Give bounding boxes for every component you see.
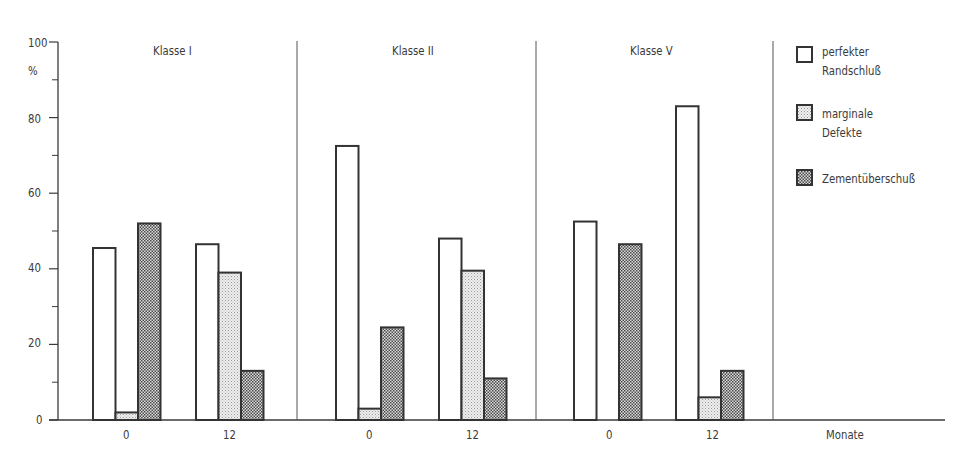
x-label-k1-12: 12 (223, 428, 236, 441)
legend-label-marginale-line1: marginale (822, 107, 873, 120)
y-tick-label-80: 80 (28, 112, 41, 125)
y-tick-label-40: 40 (28, 261, 41, 274)
bar (439, 239, 462, 420)
x-label-k2-12: 12 (466, 428, 479, 441)
legend-label-perfekter-line2: Randschluß (822, 64, 881, 77)
x-label-k2-0: 0 (366, 428, 372, 441)
y-tick-label-100: 100 (28, 36, 47, 49)
bar (219, 273, 242, 420)
legend-swatch (797, 105, 812, 120)
panel-title-klasse-1: Klasse I (153, 44, 192, 57)
bar (676, 106, 699, 420)
bar (462, 271, 485, 420)
legend-swatch (797, 170, 812, 185)
bar (574, 222, 597, 420)
legend-label-zement: Zementüberschuß (822, 172, 915, 185)
y-tick-label-60: 60 (28, 186, 41, 199)
bar (196, 244, 219, 420)
x-label-k5-0: 0 (606, 428, 612, 441)
bar (116, 412, 139, 420)
bars (93, 106, 744, 420)
bar (336, 146, 359, 420)
bar (241, 371, 264, 420)
x-label-k5-12: 12 (706, 428, 719, 441)
bar (699, 397, 722, 420)
chart-canvas (0, 0, 964, 461)
bar (484, 378, 507, 420)
y-tick-label-0: 0 (36, 413, 42, 426)
y-unit-label: % (28, 64, 38, 77)
x-axis-title: Monate (826, 428, 864, 441)
legend-label-marginale-line2: Defekte (822, 126, 862, 139)
axes (49, 41, 945, 420)
bar (721, 371, 744, 420)
y-tick-label-20: 20 (28, 336, 41, 349)
legend-boxes (797, 47, 812, 185)
bar (381, 327, 404, 420)
bar (359, 409, 382, 420)
bar (93, 248, 116, 420)
panel-title-klasse-2: Klasse II (392, 44, 434, 57)
legend-swatch (797, 47, 812, 62)
bar (619, 244, 642, 420)
panel-title-klasse-5: Klasse V (630, 44, 673, 57)
legend-label-perfekter-line1: perfekter (822, 45, 869, 58)
bar (138, 223, 161, 420)
x-label-k1-0: 0 (123, 428, 129, 441)
